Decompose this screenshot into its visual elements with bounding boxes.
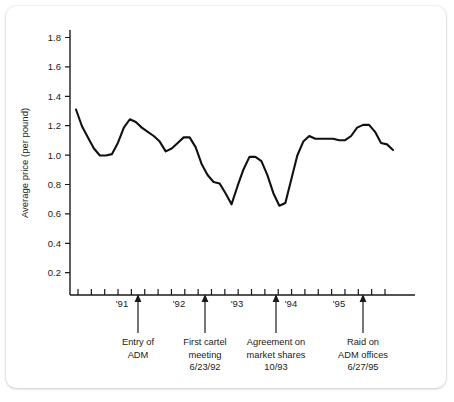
annotation-label-raid-on-adm-offices: ADM offices — [338, 350, 388, 360]
price-series-line — [76, 110, 393, 206]
price-line-chart: Average price (per pound) 1.8 1.6 1.4 1.… — [6, 6, 446, 388]
y-axis-ticks: 1.8 1.6 1.4 1.2 1.0 0.8 0.6 0.4 0.2 — [48, 32, 70, 278]
y-tick-label-1.4: 1.4 — [48, 91, 61, 102]
x-axis-year-labels: '91 '92 '93 '94 '95 — [116, 298, 345, 309]
x-tick-label-95: '95 — [333, 298, 345, 309]
figure-card: Average price (per pound) 1.8 1.6 1.4 1.… — [6, 6, 446, 388]
y-tick-label-0.2: 0.2 — [48, 267, 61, 278]
x-tick-label-93: '93 — [231, 298, 243, 309]
x-axis-ticks — [78, 289, 385, 295]
y-tick-label-1.2: 1.2 — [48, 120, 61, 131]
event-annotations: Entry ofADMFirst cartelmeeting6/23/92Agr… — [122, 294, 388, 372]
annotation-label-entry-of-adm: Entry of — [122, 337, 154, 347]
annotation-label-agreement-on-market-shares: 10/93 — [264, 362, 287, 372]
y-tick-label-0.8: 0.8 — [48, 179, 61, 190]
x-tick-label-94: '94 — [285, 298, 297, 309]
annotation-label-agreement-on-market-shares: Agreement on — [247, 337, 305, 347]
y-tick-label-1.8: 1.8 — [48, 32, 61, 43]
x-tick-label-91: '91 — [116, 298, 128, 309]
annotation-label-first-cartel-meeting: meeting — [188, 350, 221, 360]
annotation-label-raid-on-adm-offices: 6/27/95 — [347, 362, 378, 372]
x-tick-label-92: '92 — [173, 298, 185, 309]
y-tick-label-1.6: 1.6 — [48, 61, 61, 72]
y-tick-label-1.0: 1.0 — [48, 150, 61, 161]
annotation-label-agreement-on-market-shares: market shares — [247, 350, 306, 360]
annotation-label-first-cartel-meeting: First cartel — [183, 337, 226, 347]
y-tick-label-0.6: 0.6 — [48, 208, 61, 219]
y-axis-title: Average price (per pound) — [19, 108, 30, 218]
y-tick-label-0.4: 0.4 — [48, 238, 61, 249]
annotation-label-entry-of-adm: ADM — [128, 350, 149, 360]
annotation-label-first-cartel-meeting: 6/23/92 — [189, 362, 220, 372]
annotation-label-raid-on-adm-offices: Raid on — [347, 337, 379, 347]
